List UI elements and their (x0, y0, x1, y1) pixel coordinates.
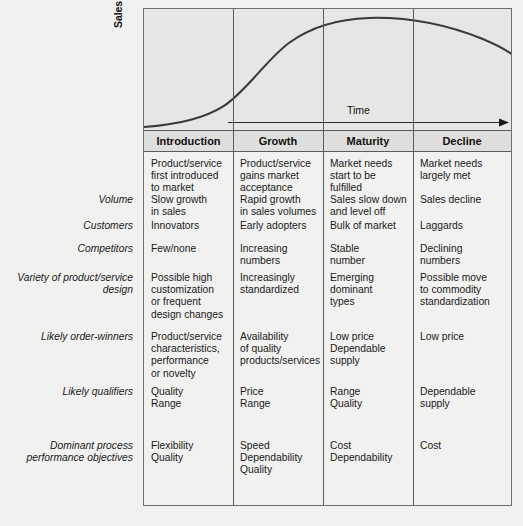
cell-line: gains market (240, 170, 319, 182)
cell-line: start to be (330, 170, 409, 182)
cell-line: Early adopters (240, 220, 319, 232)
cell-line: types (330, 296, 409, 308)
cell-line: Possible high (151, 272, 229, 284)
cell-line: supply (420, 398, 507, 410)
cell-line: Laggards (420, 220, 507, 232)
cell-line: Dependable (420, 386, 507, 398)
matrix-cell: Rapid growthin sales volumes (233, 194, 323, 218)
matrix-cell: Emergingdominanttypes (323, 272, 413, 309)
row-label-line: Variety of product/service (0, 272, 133, 284)
matrix-cell: SpeedDependabilityQuality (233, 440, 323, 477)
matrix-cell: Decliningnumbers (413, 243, 511, 267)
matrix-cell: PriceRange (233, 386, 323, 410)
cell-line: Possible move (420, 272, 507, 284)
cell-line: Market needs (330, 158, 409, 170)
divider-growth-maturity (323, 9, 324, 130)
cell-line: to commodity (420, 284, 507, 296)
cell-line: Flexibility (151, 440, 229, 452)
body-column-rule (323, 152, 324, 505)
cell-line: Availability (240, 331, 319, 343)
cell-line: standardization (420, 296, 507, 308)
matrix-header-row: IntroductionGrowthMaturityDecline (144, 130, 511, 152)
body-column-rule (413, 152, 414, 505)
cell-line: in sales volumes (240, 206, 319, 218)
body-column-rule (233, 152, 234, 505)
matrix-cell: Possible moveto commoditystandardization (413, 272, 511, 309)
matrix-cell: Product/servicecharacteristics,performan… (144, 331, 233, 380)
cell-line: Quality (330, 398, 409, 410)
cell-line: Sales decline (420, 194, 507, 206)
divider-maturity-decline (413, 9, 414, 130)
row-label-line: Competitors (0, 243, 133, 255)
matrix-cell: Market needslargely met (413, 158, 511, 182)
cell-line: Quality (240, 464, 319, 476)
x-axis-label: Time (347, 104, 370, 116)
cell-line: Product/service (151, 331, 229, 343)
time-arrow-icon (228, 118, 509, 127)
matrix-cell: Bulk of market (323, 220, 413, 232)
matrix-cell: Stablenumber (323, 243, 413, 267)
matrix-cell: Low priceDependablesupply (323, 331, 413, 368)
sales-curve (144, 18, 511, 127)
header-column-rule (323, 131, 324, 151)
matrix-cell: Early adopters (233, 220, 323, 232)
cell-line: fulfilled (330, 182, 409, 194)
matrix-cell: Laggards (413, 220, 511, 232)
cell-line: and level off (330, 206, 409, 218)
header-column-rule (233, 131, 234, 151)
row-label-gutter: VolumeCustomersCompetitorsVariety of pro… (0, 130, 138, 506)
matrix-cell: Innovators (144, 220, 233, 232)
cell-line: Product/service (151, 158, 229, 170)
cell-line: numbers (240, 255, 319, 267)
header-column-rule (413, 131, 414, 151)
matrix-cell: Cost (413, 440, 511, 452)
row-label: Likely qualifiers (0, 386, 133, 398)
cell-line: Low price (420, 331, 507, 343)
cell-line: Range (240, 398, 319, 410)
y-axis-label: Sales volume (112, 0, 128, 28)
cell-line: Rapid growth (240, 194, 319, 206)
cell-line: first introduced (151, 170, 229, 182)
matrix-column-introduction: Product/servicefirst introducedto market… (144, 152, 233, 505)
cell-line: Cost (330, 440, 409, 452)
cell-line: Innovators (151, 220, 229, 232)
matrix-column-maturity: Market needsstart to befulfilledSales sl… (323, 152, 413, 505)
matrix-body: Product/servicefirst introducedto market… (144, 152, 511, 505)
matrix-cell: RangeQuality (323, 386, 413, 410)
cell-line: Quality (151, 386, 229, 398)
cell-line: Few/none (151, 243, 229, 255)
cell-line: Range (330, 386, 409, 398)
cell-line: Increasingly (240, 272, 319, 284)
row-label-line: Volume (0, 194, 133, 206)
life-cycle-matrix: IntroductionGrowthMaturityDecline Produc… (143, 130, 512, 506)
cell-line: Price (240, 386, 319, 398)
column-header-introduction: Introduction (144, 131, 233, 151)
cell-line: to market (151, 182, 229, 194)
matrix-cell: QualityRange (144, 386, 233, 410)
cell-line: products/services (240, 355, 319, 367)
cell-line: Range (151, 398, 229, 410)
cell-line: Stable (330, 243, 409, 255)
cell-line: Dependability (330, 452, 409, 464)
cell-line: customization (151, 284, 229, 296)
cell-line: Market needs (420, 158, 507, 170)
cell-line: or frequent (151, 296, 229, 308)
cell-line: Sales slow down (330, 194, 409, 206)
matrix-cell: Low price (413, 331, 511, 343)
cell-line: Declining (420, 243, 507, 255)
column-header-growth: Growth (233, 131, 323, 151)
matrix-cell: Availabilityof qualityproducts/services (233, 331, 323, 368)
matrix-column-decline: Market needslargely metSales declineLagg… (413, 152, 511, 505)
row-label-line: design (0, 284, 133, 296)
row-label-line: Likely qualifiers (0, 386, 133, 398)
matrix-cell: Sales slow downand level off (323, 194, 413, 218)
row-label: Competitors (0, 243, 133, 255)
cell-line: Cost (420, 440, 507, 452)
cell-line: number (330, 255, 409, 267)
matrix-cell: CostDependability (323, 440, 413, 464)
cell-line: design changes (151, 309, 229, 321)
row-label: Dominant processperformance objectives (0, 440, 133, 464)
cell-line: numbers (420, 255, 507, 267)
cell-line: dominant (330, 284, 409, 296)
cell-line: Emerging (330, 272, 409, 284)
